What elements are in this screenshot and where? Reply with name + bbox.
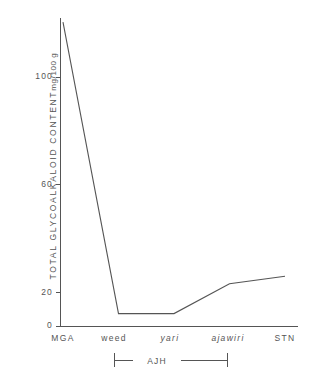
data-series-line (63, 22, 285, 313)
y-axis-title: TOTAL GLYCOALKALOID CONTENTmg/100 g (45, 16, 61, 316)
x-tick-label-yari: yari (145, 333, 195, 343)
x-tick-label-weed: weed (89, 333, 139, 343)
chart-figure: TOTAL GLYCOALKALOID CONTENTmg/100 g 100 … (0, 0, 314, 383)
y-tick-label-60: 60 (27, 180, 53, 189)
y-tick-label-100: 100 (27, 72, 53, 81)
x-tick-label-ajawiri: ajawiri (198, 333, 258, 343)
ajh-bracket-label: AJH (133, 356, 181, 366)
y-tick-label-0: 0 (27, 321, 53, 330)
x-tick-label-stn: STN (260, 333, 310, 343)
x-tick-label-mga: MGA (38, 333, 88, 343)
y-tick-label-20: 20 (27, 288, 53, 297)
